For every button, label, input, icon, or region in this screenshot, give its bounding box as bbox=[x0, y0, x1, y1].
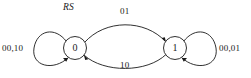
edge-0-to-1-label: 01 bbox=[120, 7, 129, 16]
state-node-0-label: 0 bbox=[67, 43, 83, 53]
input-variable-label: RS bbox=[63, 3, 74, 13]
self-loop-state-1-label: 00,01 bbox=[219, 44, 240, 53]
self-loop-state-0-label: 00,10 bbox=[2, 44, 23, 53]
edge-0-to-1 bbox=[85, 25, 166, 43]
edge-1-to-0-arrowhead bbox=[84, 55, 89, 60]
edge-1-to-0-label: 10 bbox=[120, 61, 129, 70]
state-node-1-label: 1 bbox=[167, 43, 183, 53]
state-transition-diagram: 0 1 RS 01 10 00,10 00,01 bbox=[0, 0, 251, 78]
